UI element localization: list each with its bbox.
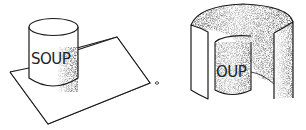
curled-paper-right-flap <box>274 22 293 99</box>
can-label: SOUP <box>31 50 71 68</box>
can-label: OUP <box>216 63 247 81</box>
figure-curled-sheet: OUP <box>153 0 306 130</box>
curled-paper-left-flap <box>191 25 208 99</box>
soup-can: SOUP <box>29 19 78 93</box>
figure-flat-sheet: SOUP <box>0 0 153 130</box>
soup-can: OUP <box>215 36 251 95</box>
